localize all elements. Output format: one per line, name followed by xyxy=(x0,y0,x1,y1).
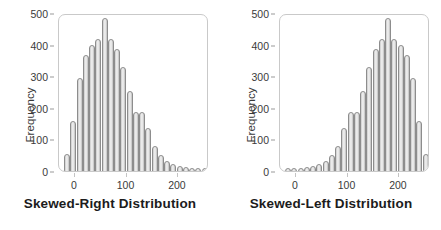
histogram-bar xyxy=(139,112,145,172)
y-tick-mark xyxy=(50,172,54,173)
histogram-bar xyxy=(127,91,133,172)
y-tick-label: 200 xyxy=(30,103,48,115)
y-tick-label: 100 xyxy=(251,134,269,146)
histogram-bar xyxy=(285,168,291,172)
histogram-bar xyxy=(189,168,195,172)
y-tick-label: 200 xyxy=(251,103,269,115)
histogram-bar xyxy=(183,167,189,172)
histogram-bar xyxy=(366,67,372,172)
histogram-bar xyxy=(404,55,410,172)
x-tick-label: 100 xyxy=(338,179,356,191)
histogram-bar xyxy=(70,121,76,172)
histogram-bar xyxy=(391,39,397,172)
y-tick-mark xyxy=(271,108,275,109)
y-tick-label: 400 xyxy=(30,40,48,52)
histogram-bar xyxy=(64,154,70,172)
histogram-bar xyxy=(379,39,385,172)
x-axis-title: Skewed-Left Distribution xyxy=(221,196,441,211)
histogram-bar xyxy=(291,168,297,172)
histogram-bar xyxy=(114,49,120,172)
histogram-bars xyxy=(59,15,207,171)
histogram-bar xyxy=(133,112,139,172)
histogram-bar xyxy=(385,18,391,172)
histogram-bar xyxy=(152,146,158,172)
histogram-bar xyxy=(95,39,101,172)
y-tick-label: 0 xyxy=(263,166,269,178)
y-tick-label: 300 xyxy=(251,71,269,83)
histogram-bar xyxy=(335,146,341,172)
histogram-bar xyxy=(310,166,316,172)
x-axis-ticks: 0 100 200 xyxy=(279,173,429,189)
x-axis-title: Skewed-Right Distribution xyxy=(0,196,220,211)
y-tick-label: 500 xyxy=(251,8,269,20)
plot-frame xyxy=(279,14,429,172)
x-tick-mark xyxy=(398,173,399,177)
x-tick-label: 0 xyxy=(292,179,298,191)
x-tick-label: 0 xyxy=(71,179,77,191)
x-tick-mark xyxy=(126,173,127,177)
histogram-bar xyxy=(177,166,183,172)
y-tick-mark xyxy=(271,45,275,46)
histogram-bar xyxy=(304,167,310,172)
histogram-bar xyxy=(77,78,83,172)
y-tick-mark xyxy=(50,45,54,46)
histogram-bar xyxy=(341,128,347,172)
x-axis-ticks: 0 100 200 xyxy=(58,173,208,189)
y-axis-ticks: 500 400 300 200 100 0 xyxy=(241,14,275,172)
x-tick-mark xyxy=(347,173,348,177)
chart-panel-skewed-left: Frequency 500 400 300 200 100 0 0 100 20… xyxy=(221,0,441,230)
histogram-bar xyxy=(298,168,304,172)
y-tick-mark xyxy=(271,14,275,15)
histogram-bar xyxy=(164,161,170,172)
y-tick-mark xyxy=(50,14,54,15)
x-tick-label: 100 xyxy=(117,179,135,191)
y-tick-mark xyxy=(271,140,275,141)
histogram-bar xyxy=(102,18,108,172)
y-tick-label: 400 xyxy=(251,40,269,52)
histogram-bar xyxy=(89,45,95,172)
plot-frame xyxy=(58,14,208,172)
histogram-bar xyxy=(360,91,366,172)
y-tick-label: 100 xyxy=(30,134,48,146)
histogram-bar xyxy=(316,164,322,172)
histogram-bar xyxy=(329,155,335,172)
histogram-bar xyxy=(373,49,379,172)
y-tick-mark xyxy=(50,108,54,109)
histogram-bar xyxy=(145,128,151,172)
histogram-bar xyxy=(323,161,329,172)
y-tick-label: 500 xyxy=(30,8,48,20)
histogram-bar xyxy=(423,154,429,172)
x-tick-label: 200 xyxy=(168,179,186,191)
histogram-bar xyxy=(83,55,89,172)
y-tick-label: 0 xyxy=(42,166,48,178)
y-tick-mark xyxy=(50,77,54,78)
x-tick-mark xyxy=(177,173,178,177)
y-axis-ticks: 500 400 300 200 100 0 xyxy=(20,14,54,172)
histogram-bar xyxy=(195,168,201,172)
x-tick-mark xyxy=(295,173,296,177)
y-tick-label: 300 xyxy=(30,71,48,83)
x-tick-mark xyxy=(74,173,75,177)
histogram-bar xyxy=(416,121,422,172)
histogram-bar xyxy=(354,112,360,172)
histogram-bar xyxy=(202,168,208,172)
histogram-bar xyxy=(348,112,354,172)
histogram-bar xyxy=(410,78,416,172)
chart-panel-skewed-right: Frequency 500 400 300 200 100 0 0 100 20… xyxy=(0,0,220,230)
y-tick-mark xyxy=(271,77,275,78)
histogram-bar xyxy=(108,39,114,172)
histogram-bar xyxy=(170,164,176,172)
y-tick-mark xyxy=(50,140,54,141)
histogram-bar xyxy=(398,45,404,172)
y-tick-mark xyxy=(271,172,275,173)
histogram-bar xyxy=(120,67,126,172)
x-tick-label: 200 xyxy=(389,179,407,191)
figure-canvas: Frequency 500 400 300 200 100 0 0 100 20… xyxy=(0,0,441,230)
histogram-bars xyxy=(280,15,428,171)
histogram-bar xyxy=(158,155,164,172)
